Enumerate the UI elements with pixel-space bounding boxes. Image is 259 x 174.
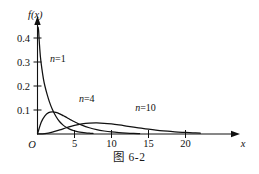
y-axis-label: f(x) [28,9,43,21]
y-tick-label-1: 0.3 [17,57,30,68]
curve-label-n-10-value: =10 [140,102,156,113]
y-tick-label-0: 0.4 [17,33,31,44]
figure-caption: 图 6-2 [0,148,259,164]
y-tick-label-3: 0.1 [17,105,30,116]
curve-label-n-1-value: =1 [55,53,66,64]
curve-label-n-1: n=1 [50,53,66,64]
x-axis-arrow-icon [231,131,240,137]
chi-square-density-chart: 0.4 0.3 0.2 0.1 5 10 15 20 O f(x) x n=1 … [0,0,259,150]
figure-container: 0.4 0.3 0.2 0.1 5 10 15 20 O f(x) x n=1 … [0,0,259,174]
curve-label-n-4: n=4 [79,93,95,104]
curve-label-n-4-value: =4 [84,93,95,104]
y-axis [34,16,40,134]
y-tick-label-2: 0.2 [17,81,30,92]
curve-label-n-10: n=10 [135,102,156,113]
